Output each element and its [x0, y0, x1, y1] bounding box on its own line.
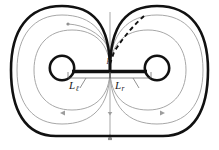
label-left-length: Lℓ: [69, 80, 79, 93]
label-right-length-subscript: r: [121, 84, 124, 93]
label-point-p: p: [107, 56, 111, 64]
point-p-marker: [109, 69, 111, 71]
left-critical-circle: [50, 56, 74, 80]
figure-canvas: [0, 0, 219, 150]
lemniscate-figure: p Lℓ Lr: [0, 0, 219, 150]
label-right-length: Lr: [115, 80, 124, 93]
right-critical-circle: [145, 56, 169, 80]
label-left-length-subscript: ℓ: [75, 84, 79, 93]
level-curve-direction-markers: [50, 19, 165, 116]
